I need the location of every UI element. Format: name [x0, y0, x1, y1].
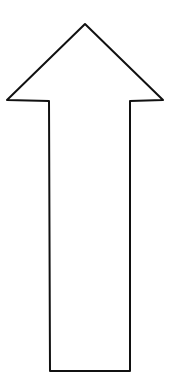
up-arrow-icon [0, 0, 178, 377]
arrow-outline [7, 24, 163, 371]
